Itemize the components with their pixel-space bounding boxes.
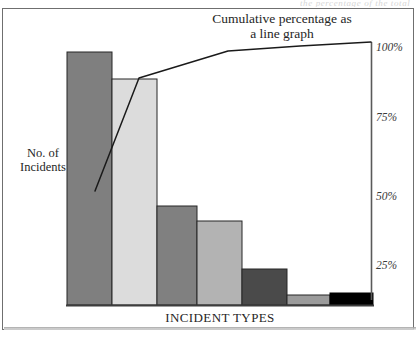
y-tick-label-50: 50% <box>376 190 397 202</box>
chart-title-line-2: a line graph <box>196 27 368 42</box>
y-tick-label-25: 25% <box>376 259 397 271</box>
clipped-header-text: the percentage of the total <box>300 0 412 7</box>
x-axis-title: INCIDENT TYPES <box>60 310 380 326</box>
figure-frame-shadow <box>4 327 416 330</box>
chart-title: Cumulative percentage as a line graph <box>196 12 368 41</box>
y-axis-title-line-1: No. of <box>27 146 59 160</box>
y-tick-label-100: 100% <box>376 41 403 53</box>
y-axis-title: No. of Incidents <box>12 146 74 174</box>
chart-title-line-1: Cumulative percentage as <box>212 11 351 26</box>
y-axis-title-line-2: Incidents <box>12 160 74 174</box>
y-tick-label-75: 75% <box>376 111 397 123</box>
